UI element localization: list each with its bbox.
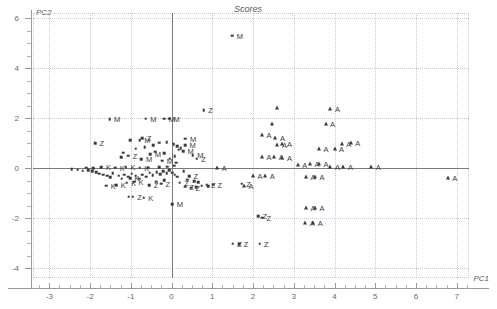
gridline-vertical [212, 13, 213, 278]
data-point-k [102, 173, 105, 176]
point-label-z: Z [99, 140, 104, 148]
x-tick-minor [80, 285, 81, 289]
data-point-z [195, 186, 198, 189]
gridline-horizontal [33, 218, 469, 219]
scores-scatter-chart: Scores PC2 PC1 -4-20246-3-2-101234567 MM… [0, 0, 497, 309]
y-tick-label: 0 [0, 164, 19, 173]
point-label-m: M [146, 156, 152, 164]
data-point-k [141, 173, 144, 176]
x-tick-label: 2 [251, 292, 255, 301]
data-point-k [92, 167, 95, 170]
data-point-k [115, 184, 118, 187]
data-point-m [134, 147, 137, 150]
x-tick-minor [467, 285, 468, 289]
data-point-z [184, 185, 187, 188]
data-point-z [148, 184, 151, 187]
point-label-m: M [177, 202, 183, 210]
data-point-z [190, 186, 193, 189]
data-point-a [308, 161, 312, 165]
data-point-a [349, 141, 353, 145]
data-point-m [168, 157, 171, 160]
x-tick-minor [151, 285, 152, 289]
data-point-k [168, 169, 171, 172]
data-point-a [311, 220, 315, 224]
point-label-a: A [335, 164, 340, 172]
data-point-m [154, 150, 157, 153]
y-tick-label: 2 [0, 114, 19, 123]
data-point-a [324, 122, 328, 126]
data-point-k [134, 174, 137, 177]
x-tick-minor [365, 285, 366, 289]
point-label-z: Z [154, 182, 159, 190]
data-point-a [242, 183, 246, 187]
x-tick-minor [192, 285, 193, 289]
point-label-a: A [319, 174, 324, 182]
y-tick-minor [27, 131, 31, 132]
x-tick-minor [59, 285, 60, 289]
data-point-k [156, 171, 159, 174]
x-tick-minor [70, 285, 71, 289]
gridline-vertical [90, 13, 91, 278]
y-tick-minor [27, 31, 31, 32]
data-point-m [122, 151, 125, 154]
point-label-z: Z [208, 107, 213, 115]
data-point-m [129, 139, 132, 142]
data-point-k [166, 165, 169, 168]
point-label-m: M [114, 117, 120, 125]
data-point-k [138, 166, 141, 169]
point-label-k: K [106, 164, 111, 172]
y-tick-minor [27, 231, 31, 232]
data-point-m [171, 203, 174, 206]
data-point-k [125, 181, 128, 184]
data-point-a [215, 165, 219, 169]
x-tick-label: -3 [46, 292, 53, 301]
data-point-m [165, 141, 168, 144]
data-point-k [130, 172, 133, 175]
gridline-horizontal [33, 68, 469, 69]
x-tick-minor [39, 285, 40, 289]
data-point-a [369, 165, 373, 169]
data-point-k [159, 173, 162, 176]
point-label-a: A [258, 173, 263, 181]
data-point-z [182, 170, 185, 173]
x-tick-major [294, 283, 295, 289]
point-label-a: A [270, 173, 275, 181]
data-point-k [112, 172, 115, 175]
x-tick-minor [121, 285, 122, 289]
y-tick-minor [27, 243, 31, 244]
data-point-m [143, 146, 146, 149]
data-point-z [179, 147, 182, 150]
data-point-k [114, 166, 117, 169]
data-point-k [176, 175, 179, 178]
x-tick-label: -1 [127, 292, 134, 301]
point-label-a: A [348, 164, 353, 172]
y-tick-label: 4 [0, 64, 19, 73]
x-tick-major [457, 283, 458, 289]
data-point-m [184, 144, 187, 147]
data-point-k [85, 166, 88, 169]
x-tick-minor [426, 285, 427, 289]
point-label-a: A [287, 141, 292, 149]
data-point-m [231, 34, 234, 37]
data-point-k [143, 196, 146, 199]
data-point-m [168, 117, 171, 120]
gridline-horizontal [33, 118, 469, 119]
gridline-vertical [49, 13, 50, 278]
x-tick-minor [396, 285, 397, 289]
data-point-k [145, 175, 148, 178]
data-point-k [158, 166, 161, 169]
point-label-a: A [267, 154, 272, 162]
data-point-z [231, 242, 234, 245]
x-tick-label: 0 [169, 292, 173, 301]
x-tick-minor [355, 285, 356, 289]
point-label-k: K [130, 165, 135, 173]
data-point-k [106, 174, 109, 177]
data-point-m [191, 154, 194, 157]
point-label-z: Z [133, 153, 138, 161]
data-point-k [162, 170, 165, 173]
data-point-z [188, 175, 191, 178]
x-tick-major [253, 283, 254, 289]
data-point-z [186, 178, 189, 181]
data-point-a [275, 143, 279, 147]
data-point-a [273, 136, 277, 140]
